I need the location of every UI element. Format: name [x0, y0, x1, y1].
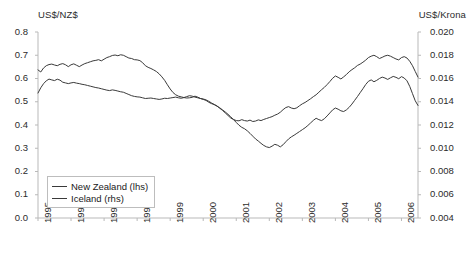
legend-label-new-zealand: New Zealand (lhs)	[71, 181, 148, 192]
x-axis-tick: 1999	[174, 202, 185, 223]
legend-swatch-new-zealand	[52, 186, 67, 187]
exchange-rate-chart: US$/NZ$ US$/Krona 0.00.10.20.30.40.50.60…	[0, 0, 474, 263]
legend-swatch-iceland	[52, 198, 67, 199]
legend-item-iceland: Iceland (rhs)	[52, 192, 148, 204]
x-axis-tick: 2005	[372, 202, 383, 223]
x-axis-tick: 2003	[306, 202, 317, 223]
x-axis-tick: 2000	[207, 202, 218, 223]
legend-item-new-zealand: New Zealand (lhs)	[52, 180, 148, 192]
x-axis-tick: 2001	[240, 202, 251, 223]
x-axis-tick: 2006	[405, 202, 416, 223]
x-axis-tick: 2004	[339, 202, 350, 223]
chart-legend: New Zealand (lhs) Iceland (rhs)	[47, 176, 155, 208]
x-axis-tick: 2002	[273, 202, 284, 223]
x-axis-tick-labels: 1995199619971998199920002001200220032004…	[0, 0, 474, 263]
legend-label-iceland: Iceland (rhs)	[71, 193, 124, 204]
